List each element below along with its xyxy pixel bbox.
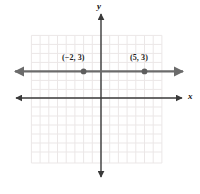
data-point-5-3 (142, 69, 148, 75)
data-point-label-neg2-3: (−2, 3) (62, 53, 85, 62)
coordinate-plane-figure: (−2, 3) (5, 3) y x (0, 0, 200, 194)
x-axis-label: x (188, 91, 193, 101)
data-point-label-5-3: (5, 3) (130, 53, 148, 62)
y-axis-label: y (97, 1, 101, 11)
coordinate-plane-svg (0, 0, 200, 194)
data-point-neg2-3 (81, 69, 87, 75)
